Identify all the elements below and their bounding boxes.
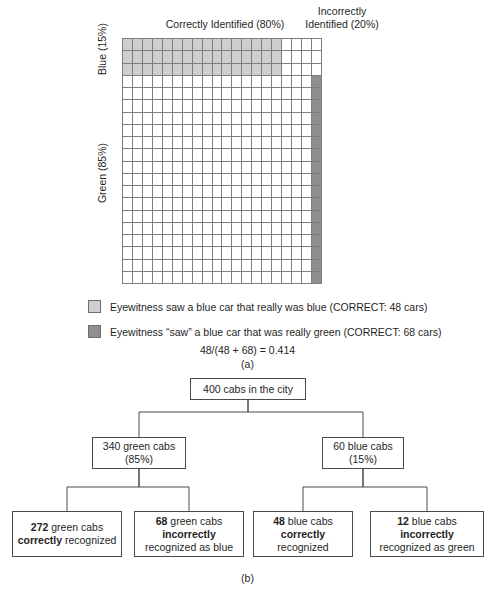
grid-cell xyxy=(282,198,291,209)
grid-cell xyxy=(153,260,162,271)
tree-node-root: 400 cabs in the city xyxy=(190,378,306,400)
grid-cell xyxy=(193,247,202,258)
grid-cell xyxy=(123,125,132,136)
grid-cell xyxy=(153,125,162,136)
grid-cell xyxy=(133,149,142,160)
grid-cell xyxy=(123,76,132,87)
grid-cell xyxy=(252,125,261,136)
grid-cell xyxy=(123,247,132,258)
grid-cell xyxy=(213,76,222,87)
grid-cell xyxy=(222,51,231,62)
grid-cell xyxy=(173,223,182,234)
grid-cell xyxy=(133,88,142,99)
grid-cell xyxy=(193,76,202,87)
grid-cell xyxy=(292,88,301,99)
grid-cell xyxy=(242,247,251,258)
grid-cell xyxy=(242,186,251,197)
grid-cell xyxy=(302,223,311,234)
grid-cell xyxy=(213,211,222,222)
grid-cell xyxy=(203,88,212,99)
grid-cell xyxy=(123,260,132,271)
grid-cell xyxy=(312,100,321,111)
tree-leaf-emphasis: correctly xyxy=(18,534,62,546)
tree-leaf-line1: 12 blue cabs xyxy=(397,515,457,528)
grid-cell xyxy=(173,174,182,185)
grid-cell xyxy=(173,235,182,246)
grid-cell xyxy=(232,39,241,50)
grid-cell xyxy=(252,272,261,283)
grid-cell xyxy=(173,149,182,160)
grid-cell xyxy=(232,272,241,283)
grid-cell xyxy=(123,51,132,62)
grid-cell xyxy=(282,174,291,185)
tree-node-blue-cabs: 60 blue cabs (15%) xyxy=(322,437,404,469)
grid-cell xyxy=(252,198,261,209)
grid-cell xyxy=(272,260,281,271)
grid-cell xyxy=(282,149,291,160)
grid-cell xyxy=(312,88,321,99)
grid-cell xyxy=(213,247,222,258)
grid-cell xyxy=(133,100,142,111)
grid-cell xyxy=(302,272,311,283)
grid-cell xyxy=(153,272,162,283)
tree-leaf-count: 12 xyxy=(397,515,409,527)
grid-cell xyxy=(302,260,311,271)
grid-cell xyxy=(123,100,132,111)
grid-cell xyxy=(163,64,172,75)
grid-cell xyxy=(312,149,321,160)
grid-cell xyxy=(312,125,321,136)
grid-cell xyxy=(163,198,172,209)
grid-cell xyxy=(272,149,281,160)
grid-cell xyxy=(312,247,321,258)
grid-cell xyxy=(163,186,172,197)
grid-cell xyxy=(242,76,251,87)
grid-cell xyxy=(232,223,241,234)
grid-cell xyxy=(282,76,291,87)
grid-cell xyxy=(183,174,192,185)
grid-cell xyxy=(302,174,311,185)
tree-leaf-count: 48 xyxy=(273,515,285,527)
grid-cell xyxy=(262,198,271,209)
grid-cell xyxy=(252,51,261,62)
tree-leaf-blue-correct: 48 blue cabs correctly recognized xyxy=(253,511,353,557)
grid-cell xyxy=(272,247,281,258)
grid-cell xyxy=(302,125,311,136)
grid-cell xyxy=(163,162,172,173)
grid-cell xyxy=(232,235,241,246)
grid-cell xyxy=(262,174,271,185)
grid-cell xyxy=(183,76,192,87)
tree-leaf-count-suffix: green cabs xyxy=(167,515,222,527)
grid-cell xyxy=(272,88,281,99)
grid-cell xyxy=(133,113,142,124)
grid-cell xyxy=(193,51,202,62)
grid-cell xyxy=(143,162,152,173)
tree-leaf-emphasis: incorrectly xyxy=(162,528,216,540)
grid-cell xyxy=(222,88,231,99)
grid-cell xyxy=(183,51,192,62)
grid-cell xyxy=(242,113,251,124)
grid-cell xyxy=(282,137,291,148)
grid-cell xyxy=(262,76,271,87)
grid-cell xyxy=(143,260,152,271)
grid-cell xyxy=(282,64,291,75)
grid-cell xyxy=(193,39,202,50)
tree-leaf-count: 272 xyxy=(31,521,49,533)
grid-cell xyxy=(312,235,321,246)
grid-cell xyxy=(252,100,261,111)
tree-leaf-line2: incorrectly xyxy=(400,528,454,541)
grid-cell xyxy=(282,162,291,173)
grid-cell xyxy=(282,113,291,124)
tree-leaf-green-correct: 272 green cabs correctly recognized xyxy=(12,511,122,557)
tree-leaf-line2: incorrectly xyxy=(162,528,216,541)
legend-item-label: Eyewitness saw a blue car that really wa… xyxy=(110,301,427,313)
grid-cell xyxy=(203,137,212,148)
grid-cell xyxy=(183,113,192,124)
grid-cell xyxy=(143,39,152,50)
grid-cell xyxy=(173,272,182,283)
grid-cell xyxy=(143,100,152,111)
grid-cell xyxy=(312,39,321,50)
grid-cell xyxy=(262,260,271,271)
grid-cell xyxy=(312,223,321,234)
grid-cell xyxy=(213,235,222,246)
grid-cell xyxy=(153,51,162,62)
